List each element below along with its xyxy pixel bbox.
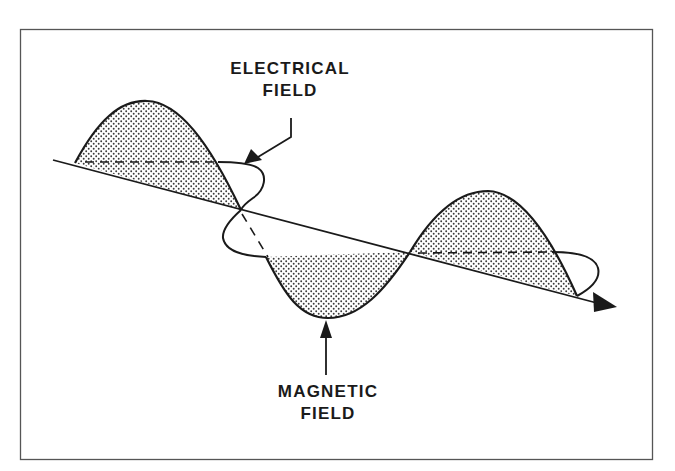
electrical-field-label: ELECTRICAL FIELD — [210, 58, 370, 102]
magnetic-field-label-line2: FIELD — [252, 403, 404, 425]
electrical-field-label-line1: ELECTRICAL — [210, 58, 370, 80]
magnetic-field-pointer-arrowhead-icon — [320, 320, 332, 338]
electrical-field-pointer-line — [258, 118, 291, 157]
magnetic-field-trough — [266, 252, 410, 318]
propagation-arrowhead-icon — [593, 292, 617, 312]
magnetic-field-label-line1: MAGNETIC — [252, 381, 404, 403]
magnetic-dashed-line-3 — [418, 252, 552, 253]
magnetic-field-label: MAGNETIC FIELD — [252, 381, 404, 425]
magnetic-dashed-line-2 — [242, 214, 268, 257]
electrical-field-lobe-1 — [75, 101, 241, 210]
electrical-field-lobe-2 — [410, 191, 577, 296]
electrical-field-label-line2: FIELD — [210, 80, 370, 102]
